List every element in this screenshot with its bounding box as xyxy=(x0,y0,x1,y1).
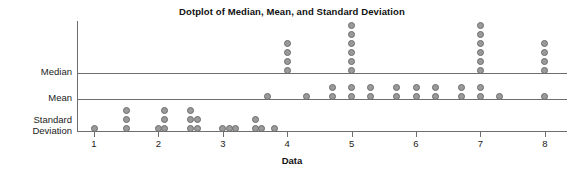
dot-median xyxy=(541,49,548,56)
dot-median xyxy=(348,49,355,56)
x-tick-1 xyxy=(94,132,95,137)
plot-area: MedianMeanStandard Deviation12345678 xyxy=(0,0,584,175)
dot-mean xyxy=(477,84,484,91)
dot-standard-deviation xyxy=(194,125,201,132)
row-label-mean: Mean xyxy=(2,92,72,103)
x-tick-4 xyxy=(287,132,288,137)
x-tick-label-4: 4 xyxy=(277,138,297,149)
dot-standard-deviation xyxy=(194,116,201,123)
dot-mean xyxy=(329,93,336,100)
dot-median xyxy=(284,40,291,47)
dot-median xyxy=(477,40,484,47)
dot-median xyxy=(477,22,484,29)
row-label-median: Median xyxy=(2,66,72,77)
dot-standard-deviation xyxy=(123,107,130,114)
dot-mean xyxy=(477,93,484,100)
x-tick-2 xyxy=(158,132,159,137)
x-tick-label-6: 6 xyxy=(406,138,426,149)
x-tick-7 xyxy=(480,132,481,137)
dot-median xyxy=(284,67,291,74)
dot-standard-deviation xyxy=(258,125,265,132)
x-tick-label-3: 3 xyxy=(213,138,233,149)
dot-median xyxy=(541,40,548,47)
dot-mean xyxy=(413,93,420,100)
dot-mean xyxy=(329,84,336,91)
x-tick-label-2: 2 xyxy=(148,138,168,149)
dot-mean xyxy=(413,84,420,91)
row-label-standard-deviation: Standard Deviation xyxy=(2,114,72,136)
x-tick-label-8: 8 xyxy=(535,138,555,149)
baseline-mean xyxy=(77,99,567,100)
dot-standard-deviation xyxy=(187,107,194,114)
x-tick-label-5: 5 xyxy=(342,138,362,149)
dot-standard-deviation xyxy=(252,116,259,123)
x-tick-5 xyxy=(352,132,353,137)
dot-median xyxy=(348,58,355,65)
dot-mean xyxy=(367,84,374,91)
dot-mean xyxy=(458,84,465,91)
x-tick-8 xyxy=(545,132,546,137)
dot-median xyxy=(284,49,291,56)
dot-median xyxy=(348,31,355,38)
x-tick-label-7: 7 xyxy=(470,138,490,149)
dot-mean xyxy=(432,84,439,91)
dot-mean xyxy=(303,93,310,100)
x-tick-3 xyxy=(223,132,224,137)
dot-median xyxy=(477,58,484,65)
dotplot-figure: Dotplot of Median, Mean, and Standard De… xyxy=(0,0,584,175)
dot-mean xyxy=(348,84,355,91)
baseline-standard-deviation xyxy=(77,131,567,132)
dot-median xyxy=(348,22,355,29)
dot-median xyxy=(348,40,355,47)
dot-standard-deviation xyxy=(123,125,130,132)
x-axis-title: Data xyxy=(0,155,584,166)
dot-median xyxy=(477,31,484,38)
dot-mean xyxy=(393,84,400,91)
x-tick-6 xyxy=(416,132,417,137)
dot-median xyxy=(477,67,484,74)
dot-median xyxy=(284,58,291,65)
dot-median xyxy=(477,49,484,56)
y-axis-line xyxy=(77,21,78,132)
dot-standard-deviation xyxy=(271,125,278,132)
dot-standard-deviation xyxy=(91,125,98,132)
x-tick-label-1: 1 xyxy=(84,138,104,149)
dot-mean xyxy=(432,93,439,100)
dot-median xyxy=(541,58,548,65)
dot-mean xyxy=(458,93,465,100)
dot-standard-deviation xyxy=(161,116,168,123)
dot-standard-deviation xyxy=(161,107,168,114)
baseline-median xyxy=(77,73,567,74)
dot-standard-deviation xyxy=(123,116,130,123)
